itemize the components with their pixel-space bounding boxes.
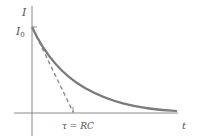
i0-label: I0 — [16, 26, 25, 39]
decay-graph — [0, 0, 197, 140]
decay-curve — [32, 27, 177, 111]
x-axis-label: t — [182, 121, 186, 131]
tau-label: τ = RC — [62, 122, 94, 131]
i0-label-subscript: 0 — [20, 31, 24, 39]
y-axis-label: I — [22, 7, 26, 18]
